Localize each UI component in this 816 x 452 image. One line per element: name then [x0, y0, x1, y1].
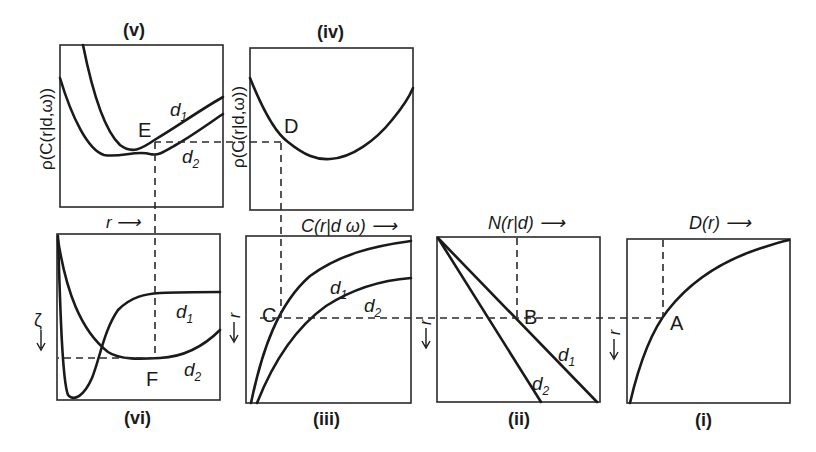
panel-vi-label-d2: d2 [184, 359, 202, 384]
down-arrow-icon [610, 339, 618, 359]
panel-iii-title: (iii) [313, 409, 340, 429]
down-arrow-icon [37, 330, 45, 350]
panel-iv-curve [250, 78, 413, 159]
panel-v-title: (v) [123, 20, 145, 40]
panel-v-label-d1: d1 [170, 99, 187, 124]
nomogram-diagram: (v) ρ(C(r|d,ω)) d1 d2 E r ⟶ (iv) ρ(C(r|d… [0, 0, 816, 452]
panel-iv-title: (iv) [317, 22, 344, 42]
panel-i: D(r) ⟶ r A (i) [606, 213, 790, 430]
panel-i-frame [627, 239, 790, 403]
down-arrow-icon [422, 328, 430, 348]
panel-vi-curve-d2 [58, 240, 220, 359]
panel-v-label-d2: d2 [182, 146, 200, 171]
panel-v-curve-d2 [60, 78, 223, 156]
panel-i-curve [630, 240, 789, 403]
point-D: D [284, 115, 298, 137]
point-E: E [138, 119, 151, 141]
panel-iv-xlabel: C(r|d ω) ⟶ [301, 216, 398, 236]
panel-iv-ylabel: ρ(C(r|d,ω)) [229, 86, 248, 168]
panel-v-xlabel: r ⟶ [106, 213, 141, 232]
panel-iii-label-d2: d2 [364, 295, 382, 320]
panel-ii-ylabel: r [417, 319, 434, 325]
panel-vi-title: (vi) [124, 408, 151, 428]
panel-iv: (iv) ρ(C(r|d,ω)) D C(r|d ω) ⟶ [229, 22, 413, 236]
panel-i-ylabel: r [606, 329, 623, 335]
panel-i-title: (i) [695, 410, 712, 430]
panel-iii: r d1 d2 C (iii) [226, 236, 411, 429]
point-A: A [670, 312, 684, 334]
down-arrow-icon [230, 322, 238, 342]
panel-v-curve-d1 [83, 45, 223, 150]
panel-iii-ylabel: r [226, 312, 243, 318]
panel-v-ylabel: ρ(C(r|d,ω)) [37, 88, 56, 170]
panel-vi: ζ d1 d2 F (vi) [34, 234, 220, 428]
panel-vi-label-d1: d1 [176, 301, 193, 326]
panel-vi-ylabel-zeta: ζ [34, 310, 42, 330]
panel-v: (v) ρ(C(r|d,ω)) d1 d2 E r ⟶ [37, 20, 223, 232]
point-B: B [524, 306, 537, 328]
point-F: F [146, 368, 158, 390]
point-C: C [262, 304, 276, 326]
panel-ii: N(r|d) ⟶ r d1 d2 B (ii) [417, 213, 600, 429]
panel-i-xlabel: D(r) ⟶ [689, 213, 752, 233]
panel-ii-xlabel: N(r|d) ⟶ [488, 213, 566, 233]
panel-ii-title: (ii) [508, 409, 530, 429]
